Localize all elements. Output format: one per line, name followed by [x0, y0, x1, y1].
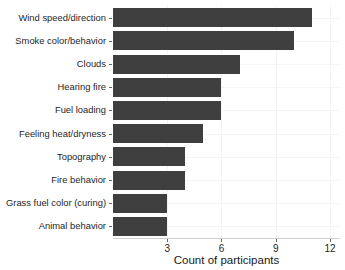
y-axis-tick: [109, 180, 112, 181]
bar: [113, 55, 240, 74]
x-axis-tick-label: 9: [263, 243, 289, 254]
plot-panel: [113, 6, 339, 238]
y-axis-label: Topography: [57, 152, 106, 162]
bar: [113, 171, 185, 190]
bar-row: [113, 124, 203, 143]
y-axis-label: Feeling heat/dryness: [19, 129, 106, 139]
y-axis-tick: [109, 64, 112, 65]
y-axis-label: Animal behavior: [39, 221, 106, 231]
bar-row: [113, 171, 185, 190]
y-axis-label: Fuel loading: [55, 105, 106, 115]
y-axis-label: Clouds: [77, 59, 106, 69]
bar-row: [113, 217, 167, 236]
y-axis-tick: [109, 87, 112, 88]
x-axis-tick: [221, 239, 222, 242]
x-axis-tick: [276, 239, 277, 242]
y-axis-tick: [109, 18, 112, 19]
y-axis-label: Grass fuel color (curing): [6, 198, 106, 208]
bar: [113, 217, 167, 236]
bar-row: [113, 101, 221, 120]
bar-row: [113, 78, 221, 97]
x-axis-tick: [330, 239, 331, 242]
y-axis-tick: [109, 41, 112, 42]
y-axis-tick: [109, 226, 112, 227]
y-axis-tick: [109, 110, 112, 111]
bar: [113, 194, 167, 213]
y-axis-tick: [109, 157, 112, 158]
bar-row: [113, 194, 167, 213]
y-axis-label: Hearing fire: [58, 82, 106, 92]
y-axis-label: Wind speed/direction: [18, 13, 106, 23]
x-axis-tick: [167, 239, 168, 242]
x-axis-title: Count of participants: [113, 254, 340, 267]
x-axis-tick-label: 6: [208, 243, 234, 254]
bar: [113, 31, 294, 50]
y-axis-label: Smoke color/behavior: [15, 36, 106, 46]
y-axis-tick: [109, 134, 112, 135]
x-axis-tick-label: 3: [154, 243, 180, 254]
bar: [113, 78, 221, 97]
bar: [113, 147, 185, 166]
bar-row: [113, 147, 185, 166]
bar-chart: Wind speed/directionSmoke color/behavior…: [0, 0, 345, 270]
bar-row: [113, 8, 312, 27]
y-axis-label: Fire behavior: [51, 175, 106, 185]
x-axis-tick-label: 12: [317, 243, 343, 254]
x-axis-line: [113, 238, 340, 239]
bar: [113, 8, 312, 27]
bar-row: [113, 55, 240, 74]
bar: [113, 101, 221, 120]
bar: [113, 124, 203, 143]
y-axis-tick: [109, 203, 112, 204]
bar-row: [113, 31, 294, 50]
